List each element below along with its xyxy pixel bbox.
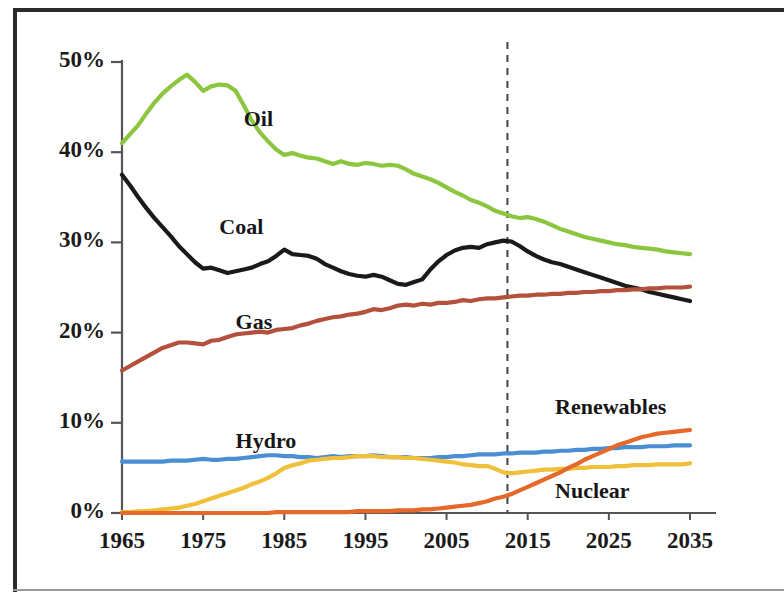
x-axis-tick-label: 2015 xyxy=(488,528,568,554)
series-label-gas: Gas xyxy=(236,309,273,335)
y-axis-tick-label: 50% xyxy=(59,47,105,73)
series-line-gas xyxy=(122,287,690,371)
series-label-renewables: Renewables xyxy=(555,394,666,420)
x-axis-tick-label: 2035 xyxy=(650,528,730,554)
y-axis-tick-label: 0% xyxy=(71,498,106,524)
series-label-nuclear: Nuclear xyxy=(555,478,630,504)
energy-mix-line-chart xyxy=(0,0,784,597)
series-label-oil: Oil xyxy=(244,106,273,132)
series-label-coal: Coal xyxy=(219,214,263,240)
y-axis-tick-label: 20% xyxy=(59,318,105,344)
x-axis-tick-label: 1985 xyxy=(244,528,324,554)
x-axis-tick-label: 1965 xyxy=(82,528,162,554)
x-axis-tick-label: 1995 xyxy=(325,528,405,554)
series-line-oil xyxy=(122,75,690,255)
x-axis-tick-label: 2005 xyxy=(407,528,487,554)
y-axis-tick-label: 10% xyxy=(59,408,105,434)
x-axis-tick-label: 2025 xyxy=(569,528,649,554)
y-axis-tick-label: 30% xyxy=(59,227,105,253)
y-axis-tick-label: 40% xyxy=(59,137,105,163)
chart-figure: 0%10%20%30%40%50%19651975198519952005201… xyxy=(0,0,784,597)
series-line-coal xyxy=(122,175,690,301)
x-axis-tick-label: 1975 xyxy=(163,528,243,554)
series-label-hydro: Hydro xyxy=(236,428,297,454)
